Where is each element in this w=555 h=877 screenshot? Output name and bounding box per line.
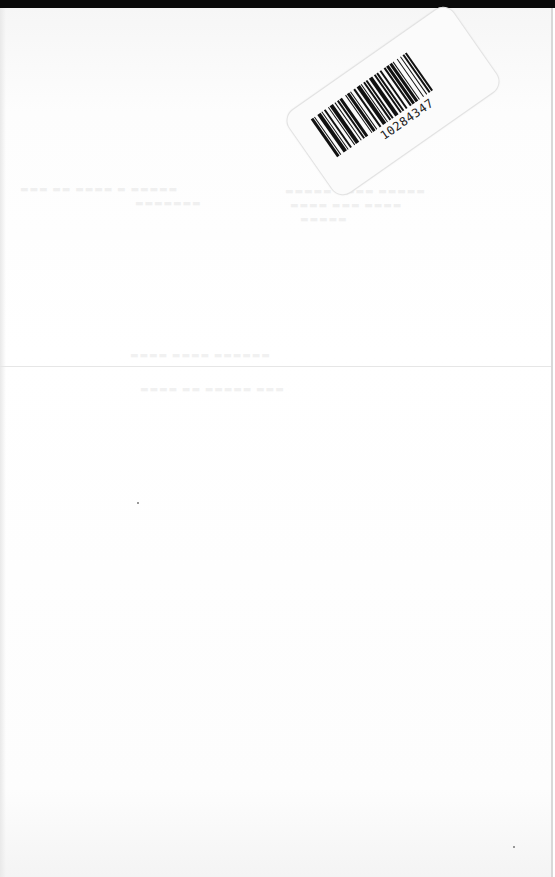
bleed-through-text: ▬▬▬▬ ▬▬▬▬ ▬▬▬▬▬▬ [130, 350, 271, 360]
bleed-through-text: ▬▬▬▬▬ [300, 214, 348, 224]
bleed-through-text: ▬▬▬▬ ▬▬▬ ▬▬▬▬ [290, 200, 402, 210]
page-crease [0, 366, 551, 367]
bleed-through-text: ▬▬▬▬▬▬▬ [135, 198, 202, 208]
dust-speck [137, 502, 139, 504]
blank-page [0, 8, 553, 877]
bleed-through-text: ▬▬▬▬ ▬▬ ▬▬▬▬▬ ▬▬▬ [140, 384, 285, 394]
dust-speck [513, 846, 515, 848]
page-edge-shadow [0, 8, 6, 877]
scan-top-border [0, 0, 555, 8]
bleed-through-text: ▬▬▬ ▬▬ ▬▬▬▬ ▬ ▬▬▬▬▬ [20, 184, 178, 194]
